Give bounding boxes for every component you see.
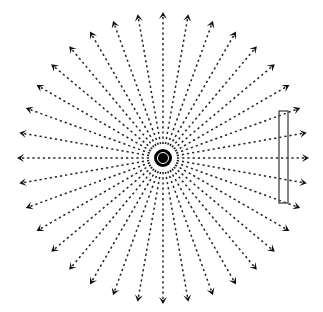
ray-arrow xyxy=(176,163,300,210)
detector-rectangle xyxy=(279,111,288,203)
diagram-canvas xyxy=(0,0,323,312)
ray-arrow xyxy=(51,167,152,252)
ray-dashed-line xyxy=(53,167,152,250)
arrowhead-icon xyxy=(90,276,97,284)
ray-dashed-line xyxy=(22,160,149,182)
ray-dashed-line xyxy=(174,167,273,250)
ray-arrow xyxy=(177,154,309,162)
ray-arrow xyxy=(112,171,159,295)
ray-arrow xyxy=(69,46,154,147)
ray-arrow xyxy=(17,154,149,162)
ray-arrow xyxy=(174,64,275,149)
ray-dashed-line xyxy=(165,172,187,299)
ray-arrow xyxy=(170,32,236,146)
arrowhead-icon xyxy=(90,32,97,40)
ray-dashed-line xyxy=(177,160,304,182)
ray-dashed-line xyxy=(71,169,154,268)
ray-arrow xyxy=(165,14,191,144)
ray-arrow xyxy=(175,165,289,231)
ray-arrow xyxy=(165,172,191,302)
arrowhead-icon xyxy=(37,85,45,92)
ray-arrow xyxy=(174,167,275,252)
ray-arrow xyxy=(37,165,151,231)
ray-dashed-line xyxy=(165,17,187,144)
arrowhead-icon xyxy=(229,32,236,40)
source-disk xyxy=(154,149,172,167)
point-source xyxy=(154,149,172,167)
ray-arrow xyxy=(177,130,307,156)
ray-arrow xyxy=(69,169,154,270)
ray-arrow xyxy=(37,85,151,151)
ray-arrow xyxy=(172,169,257,270)
ray-arrow xyxy=(112,21,159,145)
ray-arrow xyxy=(135,14,161,144)
ray-arrow xyxy=(90,170,156,284)
ray-arrow xyxy=(135,172,161,302)
ray-dashed-line xyxy=(22,133,149,155)
ray-arrow xyxy=(170,170,236,284)
arrowhead-icon xyxy=(281,85,289,92)
ray-dashed-line xyxy=(177,133,304,155)
ray-arrow xyxy=(19,130,149,156)
ray-arrow xyxy=(159,172,167,304)
ray-arrow xyxy=(26,163,150,210)
ray-arrow xyxy=(90,32,156,146)
ray-dashed-line xyxy=(174,66,273,149)
arrowhead-icon xyxy=(229,276,236,284)
ray-arrow xyxy=(177,160,307,186)
ray-dashed-line xyxy=(138,17,160,144)
ray-arrow xyxy=(175,85,289,151)
ray-dashed-line xyxy=(71,48,154,147)
ray-dashed-line xyxy=(172,48,255,147)
ray-dashed-line xyxy=(172,169,255,268)
ray-arrow xyxy=(168,171,215,295)
ray-arrow xyxy=(168,21,215,145)
ray-arrow xyxy=(176,107,300,154)
ray-arrow xyxy=(51,64,152,149)
ray-dashed-line xyxy=(138,172,160,299)
ray-arrow xyxy=(19,160,149,186)
ray-arrow xyxy=(172,46,257,147)
ray-dashed-line xyxy=(53,66,152,149)
arrowhead-icon xyxy=(281,224,289,231)
arrowhead-icon xyxy=(37,224,45,231)
ray-arrow xyxy=(159,12,167,144)
radiation-diagram xyxy=(0,0,323,312)
ray-arrow xyxy=(26,107,150,154)
